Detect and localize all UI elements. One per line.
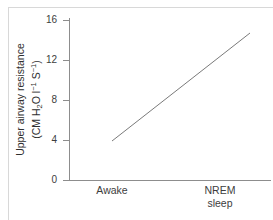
y-tick-mark-16: [63, 20, 69, 21]
y-tick-mark-4: [63, 140, 69, 141]
y-tick-0: 0: [0, 180, 69, 181]
y-tick-mark-8: [63, 100, 69, 101]
y-axis-line: [69, 18, 70, 181]
y-tick-label-4: 4: [35, 135, 57, 145]
figure-border-left: [8, 7, 9, 220]
x-axis-line: [69, 180, 271, 181]
y-tick-12: 12: [0, 60, 69, 61]
figure-border-top: [8, 7, 273, 8]
y-tick-label-12: 12: [35, 55, 57, 65]
figure-container: Upper airway resistance (CM H2O l−1 S−1)…: [0, 0, 273, 220]
y-tick-label-0: 0: [35, 175, 57, 185]
y-tick-label-8: 8: [35, 95, 57, 105]
x-category-label-awake: Awake: [80, 184, 144, 197]
y-units-sup-2: −1: [29, 64, 38, 73]
y-tick-16: 16: [0, 20, 69, 21]
y-tick-4: 4: [0, 140, 69, 141]
y-units-mid-2: S: [30, 72, 42, 82]
y-units-sup-1: −1: [29, 82, 38, 91]
x-category-label-nrem-sleep: NREM sleep: [188, 184, 252, 209]
y-tick-mark-12: [63, 60, 69, 61]
y-tick-mark-0: [63, 180, 69, 181]
data-line-series-1: [112, 33, 250, 141]
y-tick-label-16: 16: [35, 15, 57, 25]
y-tick-8: 8: [0, 100, 69, 101]
